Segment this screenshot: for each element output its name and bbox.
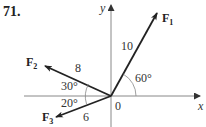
f2-angle-label: 30°: [61, 79, 78, 93]
f3-magnitude: 6: [83, 110, 89, 124]
y-axis-label: y: [99, 1, 106, 15]
f2-magnitude: 8: [75, 61, 81, 75]
angle-arc-left: [85, 84, 88, 104]
f1-magnitude: 10: [121, 39, 133, 53]
x-axis-label: x: [197, 99, 204, 113]
origin-label: 0: [115, 99, 121, 113]
problem-number: 71.: [3, 4, 21, 19]
f1-label: F1: [162, 11, 173, 27]
f1-angle-label: 60°: [135, 71, 152, 85]
f3-angle-label: 20°: [61, 96, 78, 110]
force-diagram: 71. x y 0 F1 10 60° F2 8 30° F3 6 20°: [0, 0, 206, 127]
f3-label: F3: [42, 110, 53, 126]
f2-label: F2: [26, 55, 37, 71]
